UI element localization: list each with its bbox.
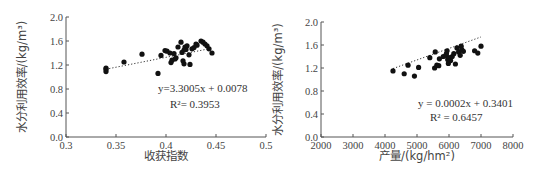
data-point (178, 40, 183, 45)
x-axis-label: 产量/(kg/hm²) (379, 149, 455, 163)
data-point (405, 63, 410, 68)
y-tick-label: 1.6 (305, 40, 318, 51)
regression-equation: y = 0.0002x + 0.3401 (418, 97, 513, 109)
data-point (155, 71, 160, 76)
y-tick-label: 0.4 (50, 108, 64, 119)
data-point (390, 68, 395, 73)
data-point (458, 53, 463, 58)
x-tick-label: 3000 (343, 140, 364, 151)
x-tick-label: 0.3 (59, 140, 72, 151)
data-point (139, 52, 144, 57)
data-point (206, 46, 211, 51)
data-point (187, 62, 192, 67)
x-tick-label: 0.45 (207, 140, 225, 151)
r-squared: R² = 0.6457 (430, 111, 483, 123)
scatter-chart-1: 0.00.40.81.21.62.00.30.350.40.450.5收获指数水… (15, 12, 273, 164)
data-point (121, 59, 126, 64)
data-point (412, 73, 417, 78)
data-point (209, 50, 214, 55)
data-point (461, 49, 466, 54)
trendline (106, 48, 211, 69)
y-tick-label: 0.8 (305, 86, 318, 97)
data-point (433, 49, 438, 54)
y-tick-label: 0.4 (305, 109, 319, 120)
x-tick-label: 2000 (311, 140, 332, 151)
data-point (175, 44, 180, 49)
data-point (186, 52, 191, 57)
data-point (416, 65, 421, 70)
x-tick-label: 0.35 (107, 140, 125, 151)
data-point (427, 55, 432, 60)
data-point (478, 44, 483, 49)
data-point (103, 65, 108, 70)
x-tick-label: 7000 (471, 140, 492, 151)
data-point (173, 55, 178, 60)
y-tick-label: 2.0 (50, 12, 63, 23)
data-point (194, 43, 199, 48)
y-tick-label: 0.8 (50, 84, 63, 95)
y-tick-label: 1.2 (50, 60, 63, 71)
regression-equation: y=3.3005x + 0.0078 (158, 82, 248, 94)
data-point (451, 51, 456, 56)
scatter-chart-2: 0.00.40.81.21.62.02000300040005000600070… (271, 17, 524, 164)
data-point (444, 48, 449, 53)
data-point (181, 61, 186, 66)
chart-canvas: 0.00.40.81.21.62.00.30.350.40.450.5收获指数水… (0, 0, 536, 177)
y-tick-label: 1.2 (305, 63, 318, 74)
data-point (436, 63, 441, 68)
x-tick-label: 8000 (503, 140, 524, 151)
data-point (402, 71, 407, 76)
y-axis-label: 水分利用效率/(kg/m³) (15, 21, 29, 134)
data-point (453, 61, 458, 66)
data-point (184, 43, 189, 48)
data-point (475, 50, 480, 55)
y-axis-label: 水分利用效率/(kg/m³) (271, 23, 285, 136)
x-axis-label: 收获指数 (144, 149, 189, 163)
y-tick-label: 2.0 (305, 17, 318, 28)
y-tick-label: 1.6 (50, 36, 63, 47)
r-squared: R²= 0.3953 (170, 98, 220, 110)
data-point (158, 53, 163, 58)
x-tick-label: 0.5 (259, 140, 272, 151)
